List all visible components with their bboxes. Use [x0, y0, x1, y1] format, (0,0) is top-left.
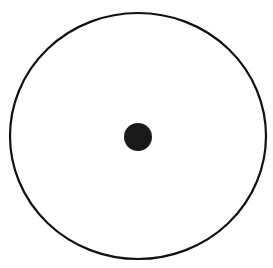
- diagram-canvas: [0, 0, 273, 268]
- center-dot: [124, 123, 152, 151]
